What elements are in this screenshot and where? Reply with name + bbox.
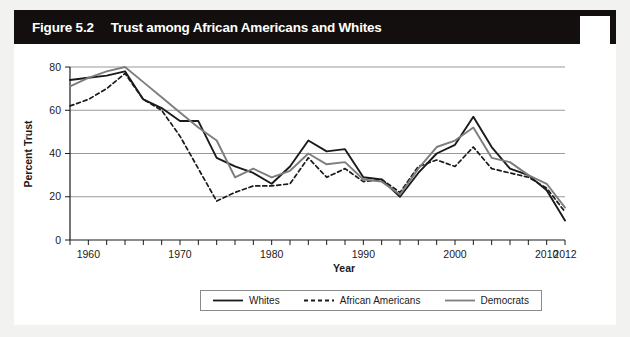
series-line-african-americans (70, 73, 565, 211)
y-axis-tick-label: 60 (49, 104, 61, 116)
legend-swatch-dashed-black-icon (304, 296, 334, 305)
legend-label-african-americans: African Americans (340, 295, 421, 306)
legend-label-democrats: Democrats (481, 295, 529, 306)
y-axis-tick-label: 20 (49, 190, 61, 202)
line-chart: 020406080 1960197019801990200020102012 P… (14, 44, 616, 325)
y-axis-tick-label: 40 (49, 147, 61, 159)
y-axis-tick-label: 0 (55, 234, 61, 246)
y-axis-tick-label: 80 (49, 61, 61, 73)
figure-container: Figure 5.2 Trust among African Americans… (0, 0, 630, 337)
series-line-whites (70, 71, 565, 220)
legend-swatch-solid-gray-icon (445, 296, 475, 305)
legend-item-african-americans: African Americans (304, 295, 421, 306)
x-axis-tick-label: 1980 (260, 248, 284, 260)
legend-label-whites: Whites (249, 295, 280, 306)
series-line-democrats (70, 67, 565, 208)
y-axis: 020406080 (49, 61, 70, 246)
legend-item-whites: Whites (213, 295, 280, 306)
x-axis-title: Year (333, 262, 355, 274)
x-axis-tick-label: 2000 (443, 248, 467, 260)
x-axis-tick-label: 2012 (553, 248, 577, 260)
x-axis-tick-label: 1990 (352, 248, 376, 260)
chart-plot-area: 020406080 1960197019801990200020102012 P… (14, 44, 616, 325)
chart-legend: Whites African Americans Democrats (200, 290, 542, 311)
y-axis-title: Percent Trust (22, 120, 34, 188)
x-axis-tick-label: 1960 (77, 248, 101, 260)
legend-swatch-solid-black-icon (213, 296, 243, 305)
x-axis: 1960197019801990200020102012 (70, 240, 577, 260)
figure-number: Figure 5.2 (32, 20, 94, 35)
gridlines (70, 67, 565, 197)
data-series-group (70, 67, 565, 221)
figure-title: Trust among African Americans and Whites (111, 20, 382, 35)
legend-item-democrats: Democrats (445, 295, 529, 306)
figure-title-bar: Figure 5.2 Trust among African Americans… (14, 10, 580, 44)
x-axis-tick-label: 1970 (168, 248, 192, 260)
